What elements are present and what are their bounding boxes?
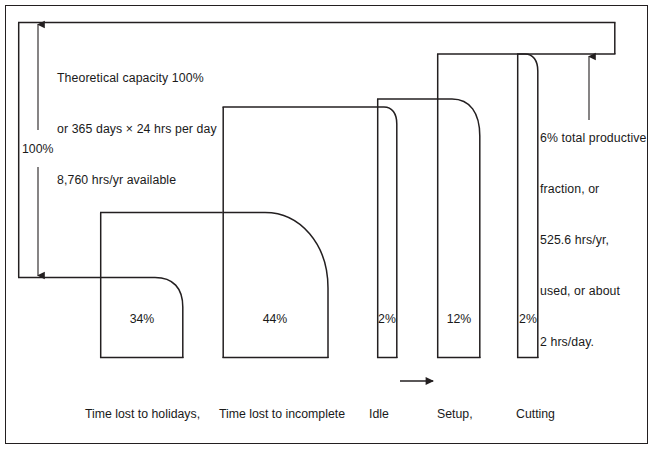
axis-label-100: 100% [22,141,53,158]
column-4-label: Setup, loading, gaging,etc. [437,368,522,451]
column-5-label: Cutting conditions [516,368,606,451]
column-1-label: Time lost to holidays, vacations, weeken… [85,368,225,451]
column-3-percent: 2% [369,311,405,328]
column-4-label-line-1: Setup, [437,405,522,423]
productive-note-line-2: fraction, or [540,181,646,198]
capacity-note-line-1: Theoretical capacity 100% [57,70,217,87]
productive-note-line-4: used, or about [540,283,646,300]
column-4-percent: 12% [438,311,480,328]
column-2-label-line-1: Time lost to incomplete [219,405,369,423]
productive-note-line-5: 2 hrs/day. [540,334,646,351]
column-2-percent: 44% [240,311,310,328]
column-1-label-line-1: Time lost to holidays, [85,405,225,423]
productive-note: 6% total productive fraction, or 525.6 h… [540,96,646,384]
col2-cascade [223,213,329,359]
productive-note-line-1: 6% total productive [540,130,646,147]
capacity-note-line-2: or 365 days × 24 hrs per day [57,121,217,138]
capacity-note: Theoretical capacity 100% or 365 days × … [57,36,217,223]
column-3-label: Idle time [369,368,409,451]
column-5-percent: 2% [510,311,546,328]
diagram-canvas: Theoretical capacity 100% or 365 days × … [0,0,655,451]
column-5-label-line-1: Cutting [516,405,606,423]
column-3-label-line-1: Idle [369,405,409,423]
capacity-note-line-3: 8,760 hrs/yr available [57,172,217,189]
productive-note-line-3: 525.6 hrs/yr, [540,232,646,249]
column-2-label: Time lost to incomplete use of second an… [219,368,369,451]
column-1-percent: 34% [107,311,177,328]
